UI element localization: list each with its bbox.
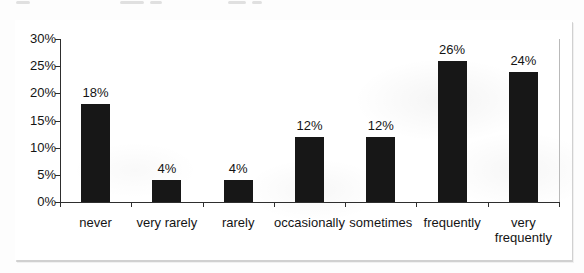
- data-label: 18%: [66, 85, 126, 101]
- y-tick-label: 10%: [12, 140, 56, 156]
- x-axis-tick: [559, 203, 560, 207]
- y-axis-tick: [55, 121, 60, 122]
- category-label-never: never: [55, 215, 137, 230]
- x-axis-tick: [488, 203, 489, 207]
- y-axis-tick: [55, 66, 60, 67]
- scan-artifact: [16, 1, 30, 4]
- scan-artifact: [150, 1, 162, 4]
- y-axis-line: [60, 39, 61, 202]
- y-tick-label: 5%: [12, 167, 56, 183]
- y-tick-label: 20%: [12, 85, 56, 101]
- category-label-rarely: rarely: [197, 215, 279, 230]
- x-axis-tick: [131, 203, 132, 207]
- category-label-frequently: frequently: [411, 215, 493, 230]
- x-axis-tick: [60, 203, 61, 207]
- y-tick-label: 0%: [12, 194, 56, 210]
- data-label: 24%: [493, 53, 553, 69]
- y-tick-label: 15%: [12, 113, 56, 129]
- scan-artifact: [120, 1, 144, 4]
- data-label: 12%: [280, 118, 340, 134]
- y-tick-label: 30%: [12, 31, 56, 47]
- bar-frequently: [438, 61, 467, 202]
- y-axis-tick: [55, 39, 60, 40]
- x-axis-tick: [274, 203, 275, 207]
- category-label-very-rarely: very rarely: [126, 215, 208, 230]
- plot-right-border: [559, 39, 560, 202]
- scan-artifact: [228, 1, 246, 4]
- bar-rarely: [224, 180, 253, 202]
- category-label-occasionally: occasionally: [269, 215, 351, 230]
- bar-sometimes: [366, 137, 395, 202]
- category-label-very-frequently: very frequently: [482, 215, 564, 245]
- data-label: 4%: [137, 161, 197, 177]
- x-axis-tick: [203, 203, 204, 207]
- data-label: 12%: [351, 118, 411, 134]
- scan-artifact: [252, 1, 262, 4]
- y-axis-tick: [55, 175, 60, 176]
- y-axis-tick: [55, 93, 60, 94]
- data-label: 26%: [422, 42, 482, 58]
- bar-occasionally: [295, 137, 324, 202]
- x-axis-tick: [416, 203, 417, 207]
- y-axis-tick: [55, 148, 60, 149]
- plot-area: 0%5%10%15%20%25%30% 18%4%4%12%12%26%24% …: [15, 20, 572, 260]
- bar-very-frequently: [509, 72, 538, 202]
- data-label: 4%: [208, 161, 268, 177]
- category-label-sometimes: sometimes: [340, 215, 422, 230]
- chart-frame: 0%5%10%15%20%25%30% 18%4%4%12%12%26%24% …: [15, 20, 572, 260]
- y-tick-label: 25%: [12, 58, 56, 74]
- bar-very-rarely: [152, 180, 181, 202]
- x-axis-tick: [345, 203, 346, 207]
- x-axis-line: [60, 202, 560, 203]
- bar-never: [81, 104, 110, 202]
- scanned-bar-chart-page: 0%5%10%15%20%25%30% 18%4%4%12%12%26%24% …: [0, 0, 584, 273]
